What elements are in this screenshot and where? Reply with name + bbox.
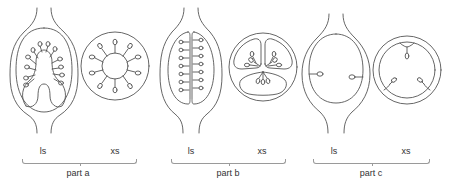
ovule-group xyxy=(179,38,203,92)
ovule-group xyxy=(384,43,430,90)
part-b-xs-drawing xyxy=(229,33,297,101)
part-c-label: part c xyxy=(360,168,383,178)
part-c-ls-label: ls xyxy=(331,146,338,156)
part-b-ls-drawing xyxy=(160,8,222,133)
part-a-xs-label: xs xyxy=(111,146,120,156)
part-c-bracket xyxy=(313,159,430,164)
part-b-bracket xyxy=(171,159,286,164)
part-c-ls-drawing xyxy=(302,14,370,133)
part-b-xs-label: xs xyxy=(258,146,267,156)
part-b-label: part b xyxy=(216,168,239,178)
ovule-group xyxy=(89,39,141,93)
part-c-xs-drawing xyxy=(373,36,441,104)
ovule-group xyxy=(309,72,363,79)
part-a-bracket xyxy=(22,159,137,164)
part-a-ls-drawing xyxy=(10,8,78,133)
part-a-ls-label: ls xyxy=(40,146,47,156)
part-b-ls-label: ls xyxy=(188,146,195,156)
part-c-xs-label: xs xyxy=(402,146,411,156)
part-a-label: part a xyxy=(66,168,89,178)
part-a-xs-drawing xyxy=(81,32,149,100)
